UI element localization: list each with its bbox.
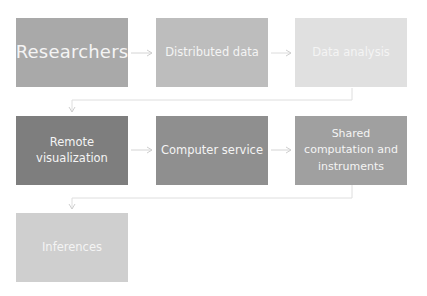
node-distributed-data-label: Distributed data xyxy=(165,45,259,61)
arrow-data-analysis-to-remote-visualization xyxy=(72,88,352,112)
node-data-analysis: Data analysis xyxy=(295,18,407,87)
node-researchers-label: Researchers xyxy=(16,40,129,64)
node-distributed-data: Distributed data xyxy=(156,18,268,87)
node-inferences-label: Inferences xyxy=(42,240,102,256)
node-inferences: Inferences xyxy=(16,213,128,282)
node-researchers: Researchers xyxy=(16,18,128,87)
node-computer-service: Computer service xyxy=(156,116,268,185)
node-shared-computation: Shared computation and instruments xyxy=(295,116,407,185)
node-data-analysis-label: Data analysis xyxy=(312,45,390,61)
node-computer-service-label: Computer service xyxy=(161,143,263,159)
node-shared-computation-label-line3: instruments xyxy=(318,159,384,176)
node-remote-visualization-label-line2: visualization xyxy=(36,151,108,167)
node-remote-visualization-label-line1: Remote xyxy=(50,135,94,151)
node-remote-visualization: Remote visualization xyxy=(16,116,128,185)
node-shared-computation-label-line1: Shared xyxy=(332,126,371,143)
node-shared-computation-label-line2: computation and xyxy=(304,142,398,159)
arrow-shared-computation-to-inferences xyxy=(72,185,352,209)
